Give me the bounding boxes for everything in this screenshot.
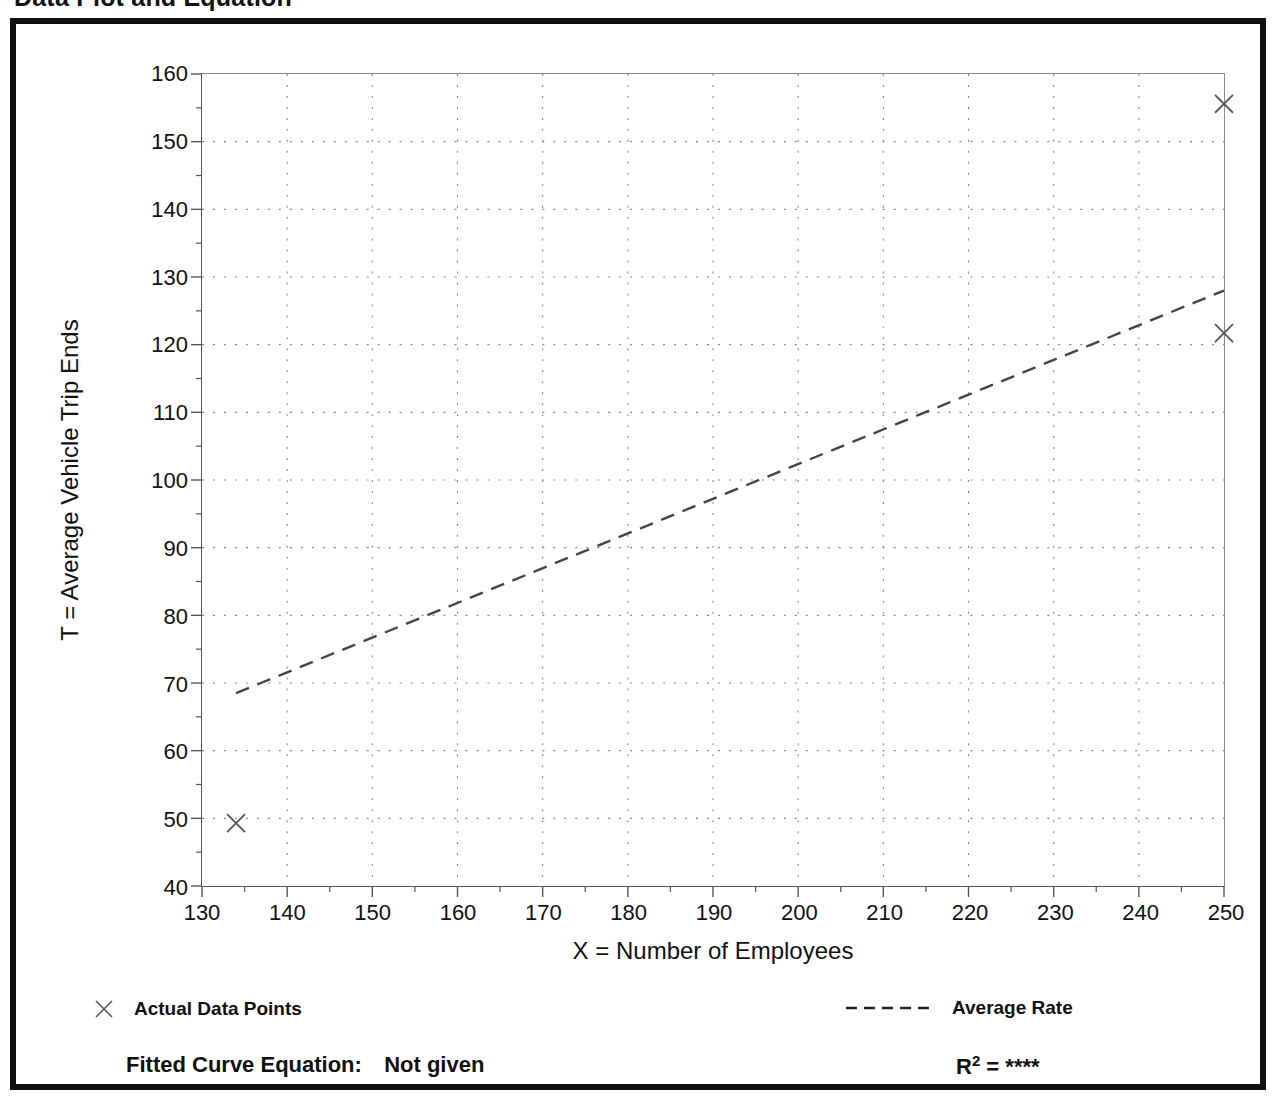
x-tick-label-240: 240 — [1122, 900, 1159, 926]
series-layer — [202, 74, 1224, 886]
chart-area: T = Average Vehicle Trip Ends 4050607080… — [16, 24, 1272, 1096]
x-tick-label-230: 230 — [1037, 900, 1074, 926]
x-tick-label-250: 250 — [1208, 900, 1245, 926]
y-tick-label-40: 40 — [164, 875, 188, 901]
r-squared-equals-sign: = — [986, 1054, 999, 1079]
r-squared-stars: **** — [1005, 1054, 1039, 1079]
legend-item-average-rate: Average Rate — [844, 997, 1073, 1019]
y-tick-label-80: 80 — [164, 604, 188, 630]
x-tick-label-180: 180 — [610, 900, 647, 926]
y-tick-label-140: 140 — [151, 197, 188, 223]
x-tick-label-170: 170 — [525, 900, 562, 926]
legend: Actual Data Points Average Rate — [16, 997, 1272, 1037]
r-squared-label: R — [956, 1054, 972, 1079]
x-tick-label-200: 200 — [781, 900, 818, 926]
figure-frame: T = Average Vehicle Trip Ends 4050607080… — [10, 18, 1266, 1090]
x-axis-title: X = Number of Employees — [201, 937, 1225, 965]
y-tick-label-110: 110 — [153, 400, 188, 426]
x-tick-label-220: 220 — [952, 900, 989, 926]
footer: Fitted Curve Equation: Not given R2 = **… — [16, 1052, 1272, 1098]
x-tick-label-190: 190 — [696, 900, 733, 926]
dashed-line-icon — [844, 1001, 934, 1015]
x-tick-label-150: 150 — [354, 900, 391, 926]
y-tick-label-120: 120 — [151, 332, 188, 358]
x-tick-label-160: 160 — [440, 900, 477, 926]
y-tick-label-70: 70 — [164, 672, 188, 698]
fitted-curve-equation-value: Not given — [384, 1052, 484, 1077]
r-squared-exponent: 2 — [972, 1052, 980, 1069]
y-tick-label-150: 150 — [151, 129, 188, 155]
x-tick-label-210: 210 — [866, 900, 903, 926]
y-tick-label-160: 160 — [151, 61, 188, 87]
x-tick-label-130: 130 — [184, 900, 221, 926]
page-title: Data Plot and Equation — [14, 0, 292, 12]
legend-label-actual-data-points: Actual Data Points — [134, 998, 302, 1020]
plot-area: 405060708090100110120130140150160 130140… — [201, 73, 1225, 887]
fitted-curve-equation-label: Fitted Curve Equation: — [126, 1052, 362, 1077]
y-axis-title: T = Average Vehicle Trip Ends — [56, 319, 84, 640]
y-tick-label-60: 60 — [164, 739, 188, 765]
legend-item-actual-data-points: Actual Data Points — [92, 997, 302, 1021]
fitted-curve-equation: Fitted Curve Equation: Not given — [126, 1052, 484, 1078]
y-tick-label-130: 130 — [151, 265, 188, 291]
y-tick-label-100: 100 — [151, 468, 188, 494]
x-tick-label-140: 140 — [269, 900, 306, 926]
y-tick-label-90: 90 — [164, 536, 188, 562]
x-marker-icon — [92, 997, 116, 1021]
legend-label-average-rate: Average Rate — [952, 997, 1073, 1019]
y-tick-label-50: 50 — [164, 807, 188, 833]
r-squared-value: R2 = **** — [956, 1052, 1040, 1080]
